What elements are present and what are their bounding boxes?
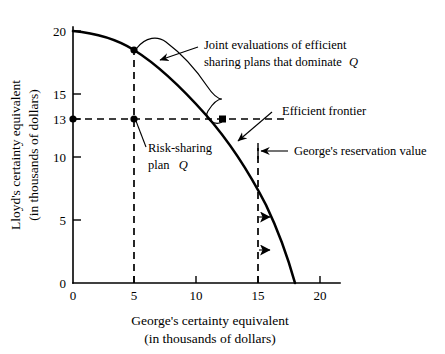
risk-sharing-line2: plan Q <box>148 158 188 172</box>
annotation-efficient-frontier: Efficient frontier <box>282 104 367 118</box>
george-reservation-marker <box>258 143 288 159</box>
point-lloyd-reservation-axis <box>69 115 76 122</box>
x-axis-title-line2: (in thousands of dollars) <box>144 331 276 346</box>
y-axis-title-line2: (in thousands of dollars) <box>26 89 41 221</box>
risk-sharing-line1: Risk-sharing <box>148 141 213 155</box>
y-tick-label-13: 13 <box>53 112 66 127</box>
x-tick-label-15: 15 <box>252 288 265 303</box>
y-axis-title: Lloyd's certainty equivalent (in thousan… <box>8 80 41 230</box>
annotation-joint-evaluations: Joint evaluations of efficient sharing p… <box>204 38 358 69</box>
x-tick-label-0: 0 <box>70 288 77 303</box>
efficient-frontier-chart: 0 5 10 15 20 20 15 13 10 5 0 <box>0 0 445 354</box>
risk-sharing-q-symbol: Q <box>179 158 188 172</box>
efficient-frontier-leader <box>238 112 272 141</box>
y-tick-labels: 20 15 13 10 5 0 <box>53 24 66 291</box>
y-tick-label-20: 20 <box>53 24 66 39</box>
dominance-arrows <box>259 217 270 250</box>
y-tick-label-15: 15 <box>53 87 66 102</box>
y-axis-title-line1: Lloyd's certainty equivalent <box>8 80 23 230</box>
x-tick-label-5: 5 <box>131 288 138 303</box>
joint-evaluations-line2: sharing plans that dominate Q <box>204 55 358 69</box>
risk-sharing-leader <box>136 121 146 147</box>
point-curve-at-13 <box>219 116 226 123</box>
joint-evaluations-q-symbol: Q <box>349 55 358 69</box>
annotation-george-reservation-value: George's reservation value <box>294 144 427 158</box>
joint-evaluations-line2-text: sharing plans that dominate <box>204 55 342 69</box>
x-axis-title-line1: George's certainty equivalent <box>131 313 289 328</box>
figure-container: 0 5 10 15 20 20 15 13 10 5 0 <box>0 0 445 354</box>
x-tick-label-10: 10 <box>190 288 203 303</box>
y-tick-label-10: 10 <box>53 150 66 165</box>
x-axis-title: George's certainty equivalent (in thousa… <box>131 313 289 346</box>
risk-sharing-line2-text: plan <box>148 158 170 172</box>
y-axis-ticks <box>73 31 81 220</box>
annotation-risk-sharing-plan: Risk-sharing plan Q <box>148 141 213 172</box>
joint-evaluations-leader <box>160 47 198 60</box>
joint-evaluations-line1: Joint evaluations of efficient <box>204 38 347 52</box>
y-tick-label-0: 0 <box>60 276 67 291</box>
y-tick-label-5: 5 <box>60 213 67 228</box>
x-tick-label-20: 20 <box>314 288 327 303</box>
x-tick-labels: 0 5 10 15 20 <box>70 288 327 303</box>
